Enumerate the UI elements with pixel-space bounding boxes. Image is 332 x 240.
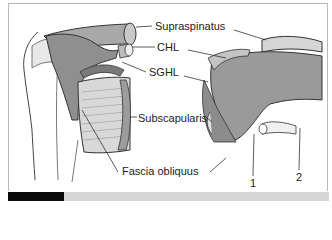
label-fascia-obliquus: Fascia obliquus bbox=[122, 165, 198, 177]
label-supraspinatus: Supraspinatus bbox=[155, 20, 225, 32]
caption-bar-gray bbox=[64, 192, 329, 201]
label-sghl: SGHL bbox=[149, 66, 179, 78]
label-chl: CHL bbox=[157, 41, 179, 53]
marker-2: 2 bbox=[296, 171, 302, 183]
marker-1: 1 bbox=[250, 177, 256, 189]
caption-bar-black bbox=[8, 192, 64, 201]
label-subscapularis: Subscapularis bbox=[138, 112, 207, 124]
